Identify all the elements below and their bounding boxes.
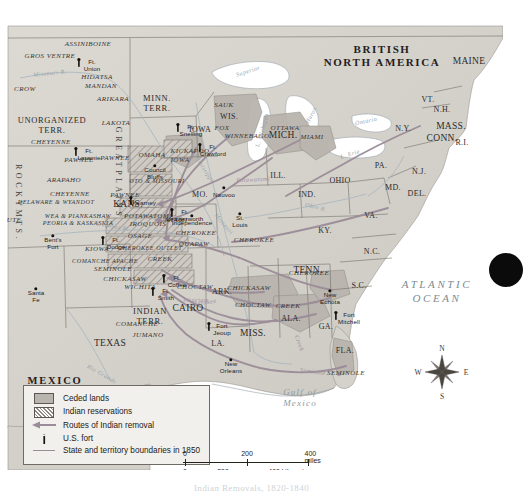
legend-label: U.S. fort xyxy=(63,434,93,444)
legend-item-removal-routes: Routes of Indian removal xyxy=(32,419,201,432)
scale-tick-label: 0 xyxy=(183,468,187,470)
compass-south-label: S xyxy=(440,392,444,401)
reservation-swatch-icon xyxy=(32,407,56,418)
legend-item-us-fort: U.S. fort xyxy=(32,432,201,445)
legend-label: Ceded lands xyxy=(63,394,109,404)
boundary-line-icon xyxy=(32,446,56,451)
fort-marker-icon xyxy=(197,138,204,156)
ceded-swatch-icon xyxy=(32,393,56,404)
scale-tick-label: 0 xyxy=(183,450,187,457)
scale-ruler xyxy=(183,459,348,466)
fort-marker-icon xyxy=(169,203,176,221)
figure-caption: Indian Removals, 1820-1840 xyxy=(0,483,503,493)
compass-east-label: E xyxy=(464,368,469,377)
scale-tick-label: 200 xyxy=(217,468,229,470)
scale-miles-labels: 0 200 400 miles xyxy=(183,450,348,459)
fort-marker-icon xyxy=(76,53,83,71)
legend-item-boundaries: State and territory boundaries in 1850 xyxy=(32,446,201,466)
fort-marker-icon xyxy=(100,231,107,249)
fort-marker-icon xyxy=(150,282,157,300)
page-edge-dot xyxy=(489,253,523,287)
map-legend: Ceded lands Indian reservations Routes o… xyxy=(23,385,210,465)
legend-item-ceded-lands: Ceded lands xyxy=(32,392,201,405)
fort-marker-icon xyxy=(175,118,182,136)
fort-marker-icon xyxy=(32,434,56,444)
legend-label: State and territory boundaries in 1850 xyxy=(63,446,200,456)
legend-label: Routes of Indian removal xyxy=(63,421,154,431)
fort-marker-icon xyxy=(333,306,340,324)
route-arrow-icon xyxy=(32,421,56,429)
scale-bar: 0 200 400 miles 0 200 400 kilometers xyxy=(183,450,348,470)
scale-kilometers-labels: 0 200 400 kilometers xyxy=(183,466,348,470)
legend-label: Indian reservations xyxy=(63,407,132,417)
compass-rose: N S E W xyxy=(414,344,470,400)
fort-marker-icon xyxy=(161,269,168,287)
scale-tick-label: 200 xyxy=(241,450,253,457)
compass-north-label: N xyxy=(439,344,444,353)
fort-marker-icon xyxy=(206,317,213,335)
historical-map[interactable]: BRITISHNORTH AMERICAMEXICOATLANTICOCEANG… xyxy=(0,8,503,470)
fort-marker-icon xyxy=(128,191,135,209)
fort-marker-icon xyxy=(73,142,80,160)
scale-tick-label: 400 kilometers xyxy=(268,468,314,470)
compass-west-label: W xyxy=(414,368,421,377)
legend-item-indian-reservations: Indian reservations xyxy=(32,405,201,418)
